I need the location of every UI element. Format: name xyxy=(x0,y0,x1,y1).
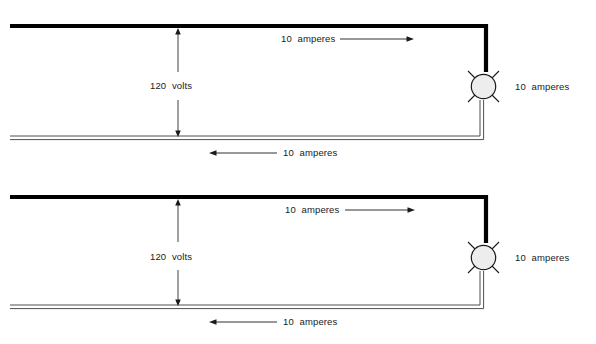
voltage-arrowhead-up xyxy=(175,199,181,206)
return-arrowhead-left xyxy=(209,319,217,324)
voltage-arrowhead-up xyxy=(175,28,181,35)
supply-current-arrow xyxy=(340,36,414,41)
return-arrowhead-left xyxy=(209,150,217,155)
lamp-ray-lower-right xyxy=(492,95,499,102)
circuit-diagram-canvas: 120 volts 10 amperes 10 amperes 10 amper… xyxy=(0,0,596,344)
neutral-conductor-inner-line xyxy=(10,271,484,309)
neutral-conductor-inner-line xyxy=(10,100,484,140)
lamp-current-label-bottom: 10 amperes xyxy=(515,253,569,263)
lamp-ray-upper-right xyxy=(492,71,499,78)
hot-conductor-wire xyxy=(10,197,486,243)
lamp-ray-lower-right xyxy=(492,266,499,273)
neutral-conductor-outer-line xyxy=(10,271,480,305)
supply-current-label-top: 10 amperes xyxy=(281,34,335,44)
voltage-label-top: 120 volts xyxy=(150,81,192,91)
supply-arrowhead-right xyxy=(407,36,415,41)
lamp-ray-upper-left xyxy=(468,242,475,249)
return-current-arrow xyxy=(209,319,277,324)
supply-current-label-bottom: 10 amperes xyxy=(285,205,339,215)
voltage-label-bottom: 120 volts xyxy=(150,252,192,262)
return-current-arrow xyxy=(209,150,277,155)
neutral-conductor-outer-line xyxy=(10,100,480,136)
lamp-icon xyxy=(468,71,499,102)
lamp-globe xyxy=(471,74,495,98)
supply-arrowhead-right xyxy=(408,207,416,212)
return-current-label-bottom: 10 amperes xyxy=(283,317,337,327)
supply-current-arrow xyxy=(345,207,415,212)
lamp-ray-lower-left xyxy=(468,266,475,273)
hot-conductor-wire xyxy=(10,26,486,72)
lamp-current-label-top: 10 amperes xyxy=(515,82,569,92)
lamp-icon xyxy=(468,242,499,273)
lamp-ray-upper-left xyxy=(468,71,475,78)
lamp-ray-upper-right xyxy=(492,242,499,249)
lamp-globe xyxy=(471,245,495,269)
return-current-label-top: 10 amperes xyxy=(283,148,337,158)
lamp-ray-lower-left xyxy=(468,95,475,102)
